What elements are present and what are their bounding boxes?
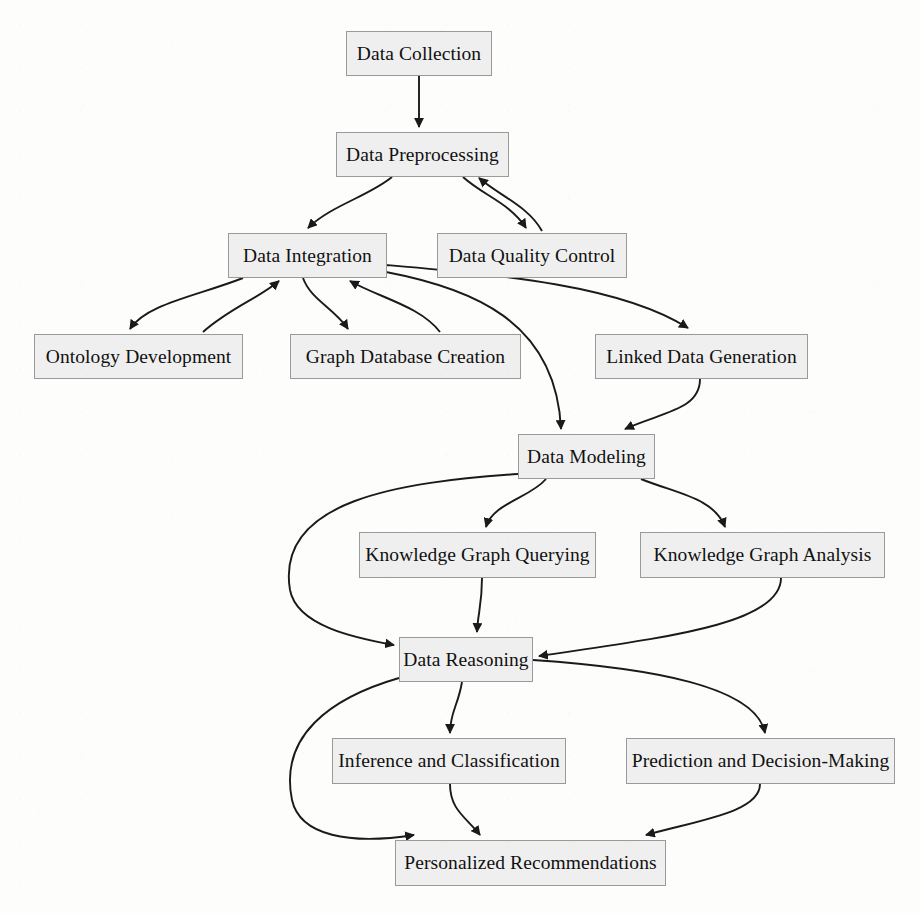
node-label: Data Modeling [523, 447, 650, 467]
node-data-integration[interactable]: Data Integration [228, 233, 387, 278]
node-label: Inference and Classification [334, 751, 564, 771]
node-data-reasoning[interactable]: Data Reasoning [399, 637, 533, 682]
node-label: Linked Data Generation [602, 347, 801, 367]
node-label: Data Quality Control [445, 246, 620, 266]
node-prediction-decision[interactable]: Prediction and Decision-Making [626, 738, 895, 784]
node-personalized-recs[interactable]: Personalized Recommendations [395, 840, 666, 886]
edge-data-quality-control-to-data-preprocessing [479, 178, 542, 231]
edge-ontology-development-to-data-integration [203, 281, 279, 332]
edge-data-integration-to-graph-database-creation [303, 278, 348, 329]
edge-kg-analysis-to-data-reasoning [539, 578, 781, 656]
node-label: Data Preprocessing [342, 145, 503, 165]
node-ontology-development[interactable]: Ontology Development [34, 334, 243, 379]
node-kg-querying[interactable]: Knowledge Graph Querying [359, 532, 596, 578]
node-label: Knowledge Graph Analysis [650, 545, 876, 565]
edge-data-reasoning-to-prediction-decision [533, 660, 765, 733]
edge-data-modeling-to-kg-querying [486, 479, 546, 527]
edge-graph-database-creation-to-data-integration [350, 281, 440, 332]
node-label: Graph Database Creation [302, 347, 509, 367]
node-label: Data Reasoning [399, 650, 532, 670]
node-label: Personalized Recommendations [400, 853, 660, 873]
node-label: Ontology Development [42, 347, 236, 367]
node-graph-database-creation[interactable]: Graph Database Creation [290, 334, 521, 379]
node-label: Data Integration [239, 246, 376, 266]
node-kg-analysis[interactable]: Knowledge Graph Analysis [640, 532, 885, 578]
node-label: Prediction and Decision-Making [628, 751, 894, 771]
node-label: Knowledge Graph Querying [361, 545, 593, 565]
edge-inference-classification-to-personalized-recs [450, 784, 480, 835]
edge-data-modeling-to-kg-analysis [641, 479, 725, 527]
node-data-quality-control[interactable]: Data Quality Control [437, 233, 627, 278]
edge-data-preprocessing-to-data-integration [308, 177, 392, 228]
node-inference-classification[interactable]: Inference and Classification [332, 738, 566, 784]
edge-data-reasoning-to-inference-classification [450, 682, 462, 733]
node-linked-data-generation[interactable]: Linked Data Generation [595, 334, 808, 379]
node-data-collection[interactable]: Data Collection [346, 31, 492, 76]
edge-prediction-decision-to-personalized-recs [646, 784, 760, 835]
node-data-preprocessing[interactable]: Data Preprocessing [336, 132, 509, 177]
edge-kg-querying-to-data-reasoning [477, 578, 482, 632]
edge-data-integration-to-ontology-development [130, 278, 243, 329]
edge-linked-data-generation-to-data-modeling [625, 379, 700, 429]
node-data-modeling[interactable]: Data Modeling [518, 434, 655, 479]
flowchart-canvas: Data Collection Data Preprocessing Data … [0, 0, 920, 913]
edge-data-preprocessing-to-data-quality-control [463, 177, 526, 228]
node-label: Data Collection [353, 44, 485, 64]
